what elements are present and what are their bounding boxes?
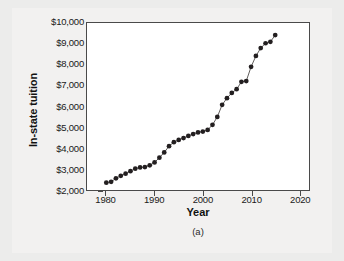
- data-point: [234, 87, 239, 92]
- data-point: [254, 54, 259, 59]
- data-point: [133, 166, 138, 171]
- y-axis-title: In-state tuition: [27, 30, 39, 190]
- y-tick-mark: [98, 191, 103, 192]
- data-point: [109, 179, 114, 184]
- data-point: [210, 122, 215, 127]
- data-point: [157, 155, 162, 160]
- data-point: [263, 41, 268, 46]
- data-point: [258, 46, 263, 51]
- x-tick-mark: [203, 191, 204, 196]
- data-point: [244, 79, 249, 84]
- data-point: [143, 165, 148, 170]
- tuition-data-points: [104, 33, 278, 185]
- x-tick-mark: [154, 191, 155, 196]
- x-tick-mark: [252, 191, 253, 196]
- data-point: [205, 128, 210, 133]
- data-point: [200, 129, 205, 134]
- data-point: [138, 165, 143, 170]
- data-point: [118, 173, 123, 178]
- x-axis-title: Year: [86, 206, 310, 218]
- data-point: [114, 176, 119, 181]
- data-point: [273, 33, 278, 38]
- data-point: [176, 138, 181, 143]
- scatter-plot-svg: [87, 23, 309, 190]
- data-point: [268, 39, 273, 44]
- data-point: [152, 160, 157, 165]
- tuition-trend-line: [106, 35, 275, 183]
- data-point: [196, 130, 201, 135]
- data-point: [186, 134, 191, 139]
- data-point: [128, 169, 133, 174]
- data-point: [123, 171, 128, 176]
- data-point: [220, 102, 225, 107]
- data-point: [215, 115, 220, 120]
- data-point: [104, 180, 109, 185]
- data-point: [249, 64, 254, 69]
- plot-area: [86, 22, 310, 191]
- data-point: [181, 136, 186, 141]
- data-point: [191, 132, 196, 137]
- x-tick-mark: [105, 191, 106, 196]
- x-tick-mark: [300, 191, 301, 196]
- data-point: [229, 91, 234, 96]
- data-point: [239, 79, 244, 84]
- y-tick-label: $10,000: [24, 16, 84, 27]
- data-point: [167, 144, 172, 149]
- figure-caption: (a): [86, 226, 310, 237]
- data-point: [147, 163, 152, 168]
- data-point: [171, 140, 176, 145]
- figure-panel: $2,000$3,000$4,000$5,000$6,000$7,000$8,0…: [0, 0, 344, 261]
- data-point: [162, 150, 167, 155]
- data-point: [225, 96, 230, 101]
